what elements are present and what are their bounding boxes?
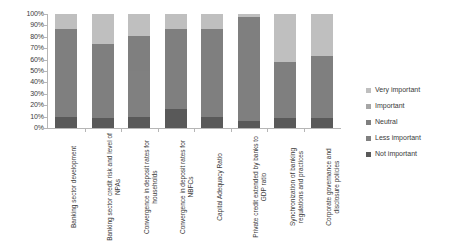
bar-segment[interactable] [274, 14, 296, 62]
y-axis-tick-label: 50% [30, 67, 44, 75]
x-axis-category-label: Convergence in deposit rates for househo… [143, 133, 158, 241]
bar-segment[interactable] [92, 118, 114, 128]
x-axis-category-label: Synchronization of banking regulations a… [289, 133, 304, 241]
y-axis-tick-label: 10% [30, 113, 44, 121]
x-axis-tick-mark [231, 129, 232, 132]
y-axis-tick-label: 0% [34, 124, 44, 132]
bar-segment[interactable] [128, 71, 150, 117]
legend-swatch-icon [366, 88, 371, 93]
x-axis-tick-mark [121, 129, 122, 132]
y-axis-tick-label: 60% [30, 56, 44, 64]
bar-segment[interactable] [55, 14, 77, 29]
bar-stack[interactable] [274, 14, 296, 128]
y-axis-tick-label: 70% [30, 44, 44, 52]
x-axis-category-label: Corporate governance and disclosure poli… [325, 133, 340, 241]
bar-stack[interactable] [92, 14, 114, 128]
y-axis-tick-mark [44, 94, 47, 95]
x-axis-category-label: Private credit extended by banks to GDP … [252, 133, 267, 241]
legend-item[interactable]: Less important [366, 130, 450, 146]
x-axis-tick-mark [158, 129, 159, 132]
x-axis-tick-mark [267, 129, 268, 132]
legend-swatch-icon [366, 120, 371, 125]
bar-segment[interactable] [238, 14, 260, 17]
bar-stack[interactable] [311, 14, 333, 128]
legend-swatch-icon [366, 104, 371, 109]
legend-item[interactable]: Not important [366, 146, 450, 162]
bar-stack[interactable] [55, 14, 77, 128]
x-axis-tick-mark [194, 129, 195, 132]
y-axis-tick-mark [44, 105, 47, 106]
bar-segment[interactable] [55, 29, 77, 117]
stacked-bar-chart: 100%90%80%70%60%50%40%30%20%10%0% Very i… [0, 0, 452, 248]
legend-label: Not important [375, 150, 417, 158]
bar-stack[interactable] [238, 14, 260, 128]
bar-segment[interactable] [201, 14, 223, 29]
plot-area [48, 14, 340, 128]
bar-stack[interactable] [128, 14, 150, 128]
bar-segment[interactable] [311, 56, 333, 118]
y-axis-tick-mark [44, 60, 47, 61]
legend-swatch-icon [366, 136, 371, 141]
y-axis-tick-mark [44, 117, 47, 118]
y-axis-tick-label: 40% [30, 78, 44, 86]
bar-segment[interactable] [311, 118, 333, 128]
bar-segment[interactable] [274, 62, 296, 118]
bar-segment[interactable] [238, 17, 260, 121]
legend-label: Important [375, 102, 405, 110]
y-axis-tick-label: 80% [30, 33, 44, 41]
chart-legend: Very importantImportantNeutralLess impor… [366, 82, 450, 162]
legend-item[interactable]: Neutral [366, 114, 450, 130]
legend-label: Neutral [375, 118, 398, 126]
y-axis-tick-mark [44, 14, 47, 15]
y-axis-tick-label: 100% [26, 10, 44, 18]
bar-segment[interactable] [92, 44, 114, 118]
y-axis-tick-mark [44, 48, 47, 49]
y-axis-tick-label: 30% [30, 90, 44, 98]
bar-segment[interactable] [128, 36, 150, 71]
x-axis-category-label: Banking sector credit risk and level of … [106, 133, 121, 241]
bar-segment[interactable] [201, 117, 223, 128]
legend-label: Very important [375, 86, 420, 94]
bar-segment[interactable] [165, 14, 187, 29]
y-axis-tick-mark [44, 37, 47, 38]
legend-label: Less important [375, 134, 421, 142]
bar-segment[interactable] [128, 14, 150, 36]
legend-swatch-icon [366, 152, 371, 157]
bar-segment[interactable] [165, 29, 187, 109]
y-axis: 100%90%80%70%60%50%40%30%20%10%0% [8, 10, 44, 128]
legend-item[interactable]: Important [366, 98, 450, 114]
bar-stack[interactable] [201, 14, 223, 128]
x-axis-category-label: Convergence in deposit rates for NBFCs [179, 133, 194, 241]
y-axis-tick-mark [44, 128, 47, 129]
bar-segment[interactable] [165, 109, 187, 128]
y-axis-tick-mark [44, 71, 47, 72]
bar-stack[interactable] [165, 14, 187, 128]
x-axis-category-label: Banking sector development [70, 133, 78, 241]
bar-segment[interactable] [55, 117, 77, 128]
bar-segment[interactable] [274, 118, 296, 128]
bar-segment[interactable] [201, 29, 223, 117]
legend-item[interactable]: Very important [366, 82, 450, 98]
x-axis-tick-mark [85, 129, 86, 132]
y-axis-tick-mark [44, 25, 47, 26]
bar-segment[interactable] [238, 121, 260, 128]
y-axis-tick-label: 20% [30, 101, 44, 109]
x-axis-tick-mark [304, 129, 305, 132]
y-axis-tick-mark [44, 82, 47, 83]
y-axis-tick-label: 90% [30, 21, 44, 29]
x-axis-category-label: Capital Adequacy Ratio [216, 133, 224, 241]
bar-segment[interactable] [311, 14, 333, 56]
bar-segment[interactable] [92, 14, 114, 44]
bar-segment[interactable] [128, 117, 150, 128]
